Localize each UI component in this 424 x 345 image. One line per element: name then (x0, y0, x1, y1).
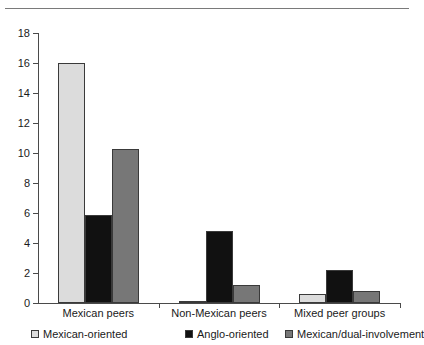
chart-legend: Mexican-orientedAnglo-orientedMexican/du… (0, 328, 414, 344)
y-axis-tick-label: 12 (18, 118, 30, 129)
y-axis-tick (33, 183, 38, 184)
y-axis-tick-label: 2 (24, 268, 30, 279)
bar (299, 294, 326, 303)
y-axis-line (38, 33, 39, 304)
bar (206, 231, 233, 303)
y-axis-tick (33, 273, 38, 274)
y-axis-tick (33, 153, 38, 154)
bar (58, 63, 85, 303)
y-axis-tick-label: 18 (18, 28, 30, 39)
legend-label: Mexican/dual-involvement (297, 328, 424, 340)
legend-swatch-icon (285, 330, 293, 338)
x-axis-line (38, 303, 400, 304)
legend-item[interactable]: Mexican-oriented (31, 328, 127, 340)
legend-label: Anglo-oriented (197, 328, 269, 340)
y-axis-tick (33, 213, 38, 214)
bar (326, 270, 353, 303)
x-axis-group-label: Non-Mexican peers (159, 307, 280, 320)
legend-swatch-icon (31, 330, 39, 338)
legend-item[interactable]: Mexican/dual-involvement (285, 328, 424, 340)
x-axis-group-label: Mixed peer groups (279, 307, 400, 320)
bar (353, 291, 380, 303)
y-axis-tick-label: 8 (24, 178, 30, 189)
y-axis-tick (33, 303, 38, 304)
legend-label: Mexican-oriented (43, 328, 127, 340)
legend-swatch-icon (185, 330, 193, 338)
y-axis-tick (33, 63, 38, 64)
y-axis-tick-label: 0 (24, 298, 30, 309)
x-axis-tick (400, 303, 401, 308)
bar (112, 149, 139, 304)
bar (233, 285, 260, 303)
y-axis-tick-label: 10 (18, 148, 30, 159)
x-axis-group-label: Mexican peers (38, 307, 159, 320)
y-axis-tick-label: 14 (18, 88, 30, 99)
y-axis-tick-label: 16 (18, 58, 30, 69)
bar (179, 301, 206, 303)
legend-item[interactable]: Anglo-oriented (185, 328, 269, 340)
y-axis-tick (33, 243, 38, 244)
y-axis-tick-label: 4 (24, 238, 30, 249)
y-axis-tick (33, 33, 38, 34)
y-axis-tick-label: 6 (24, 208, 30, 219)
y-axis-tick (33, 93, 38, 94)
bar (85, 215, 112, 304)
y-axis-tick (33, 123, 38, 124)
